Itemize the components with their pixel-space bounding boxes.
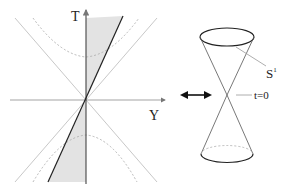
bottom-circle-front <box>201 154 253 162</box>
bottom-circle-back <box>201 146 253 154</box>
spacetime-diagram: T Y <box>10 9 165 184</box>
double-cone-diagram: S1 t=0 <box>200 28 277 162</box>
top-circle <box>200 28 254 46</box>
cone-edge-right-lower <box>227 95 253 154</box>
double-arrow-icon <box>180 91 212 99</box>
diagram-canvas: T Y S1 t=0 <box>0 0 292 189</box>
s1-label: S1 <box>266 66 277 81</box>
y-axis-label: Y <box>149 108 159 123</box>
t-axis-label: T <box>71 9 80 24</box>
cone-edge-left-lower <box>201 95 227 154</box>
s1-pointer <box>236 47 266 66</box>
t0-label: t=0 <box>254 89 269 101</box>
